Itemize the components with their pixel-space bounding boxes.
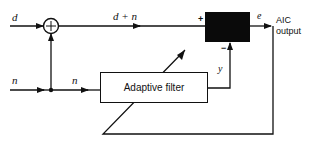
d-plus-n-label: d + n — [113, 11, 137, 22]
minus-sign-label: − — [221, 44, 226, 53]
adaptive-filter-block: Adaptive filter — [100, 72, 208, 103]
n-input-label: n — [12, 75, 18, 86]
n-branch-label: n — [72, 75, 78, 86]
error-label: e — [257, 11, 261, 21]
y-label: y — [218, 64, 222, 74]
aic-output-label-line2: output — [276, 27, 301, 36]
aic-output-label-line1: AIC — [276, 16, 291, 25]
subtractor-block — [205, 12, 250, 42]
adaptive-filter-label: Adaptive filter — [124, 82, 185, 93]
d-input-label: d — [12, 12, 18, 23]
plus-sign-label: + — [198, 15, 203, 24]
